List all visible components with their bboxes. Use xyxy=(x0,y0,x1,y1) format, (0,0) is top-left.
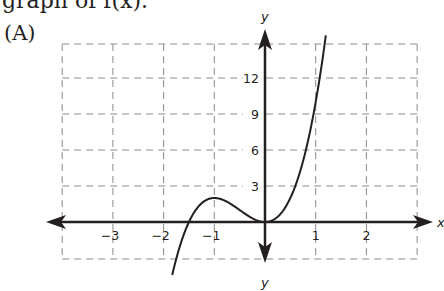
y-tick-label: 6 xyxy=(251,143,259,158)
x-tick-label: −2 xyxy=(151,228,169,243)
graph: −3−2−11236912xyy xyxy=(0,0,444,291)
x-tick-label: −3 xyxy=(101,228,119,243)
y-axis-label-bottom: y xyxy=(260,275,269,290)
y-tick-label: 12 xyxy=(243,71,259,86)
x-tick-label: 1 xyxy=(312,228,320,243)
y-tick-label: 3 xyxy=(251,179,259,194)
y-tick-label: 9 xyxy=(251,107,259,122)
x-tick-label: −1 xyxy=(202,228,220,243)
x-tick-label: 2 xyxy=(362,228,370,243)
y-axis-label-top: y xyxy=(260,9,269,24)
grid-lines xyxy=(62,44,417,259)
x-axis-label: x xyxy=(436,215,444,230)
